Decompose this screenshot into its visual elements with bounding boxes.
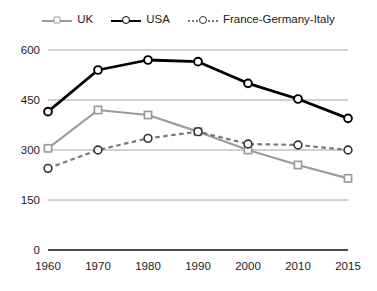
- data-point-marker: [44, 108, 52, 116]
- plot-svg: 0150300450600 19601970198019902000201020…: [0, 36, 377, 291]
- line-circle-marker-dotted-icon: [188, 15, 218, 26]
- legend-label-france-germany-italy: France-Germany-Italy: [223, 14, 335, 26]
- x-axis-tick-label: 2000: [235, 260, 261, 272]
- series-line: [48, 60, 348, 118]
- x-axis-tick-labels: 1960197019801990200020102015: [35, 260, 361, 272]
- data-point-marker: [344, 146, 352, 154]
- data-point-marker: [294, 95, 302, 103]
- legend-item-usa[interactable]: USA: [111, 14, 170, 26]
- gridlines: [48, 50, 348, 250]
- data-point-marker: [194, 128, 202, 136]
- line-circle-marker-icon: [111, 15, 141, 26]
- x-axis-tick-label: 2010: [285, 260, 311, 272]
- x-axis-tick-label: 1970: [85, 260, 111, 272]
- data-point-marker: [294, 161, 301, 168]
- y-axis-tick-labels: 0150300450600: [21, 44, 40, 256]
- data-point-marker: [44, 164, 52, 172]
- x-axis-tick-label: 2015: [335, 260, 361, 272]
- data-point-marker: [94, 106, 101, 113]
- data-point-marker: [94, 146, 102, 154]
- line-square-marker-icon: [42, 15, 72, 26]
- series-line: [48, 110, 348, 178]
- chart-legend: UK USA France-Germany-Italy: [0, 10, 377, 30]
- x-axis-tick-label: 1990: [185, 260, 211, 272]
- data-series-layer: [44, 56, 352, 182]
- data-point-marker: [94, 66, 102, 74]
- plot-area: 0150300450600 19601970198019902000201020…: [0, 36, 377, 291]
- data-point-marker: [244, 79, 252, 87]
- data-point-marker: [294, 141, 302, 149]
- data-point-marker: [44, 145, 51, 152]
- y-axis-tick-label: 150: [21, 194, 40, 206]
- data-point-marker: [344, 114, 352, 122]
- data-point-marker: [194, 58, 202, 66]
- y-axis-tick-label: 450: [21, 94, 40, 106]
- data-point-marker: [144, 56, 152, 64]
- legend-label-usa: USA: [146, 14, 170, 26]
- line-chart: UK USA France-Germany-Italy 015030045060…: [0, 0, 377, 291]
- y-axis-tick-label: 300: [21, 144, 40, 156]
- series-usa: [44, 56, 352, 122]
- data-point-marker: [144, 111, 151, 118]
- y-axis-tick-label: 600: [21, 44, 40, 56]
- x-axis-tick-label: 1980: [135, 260, 161, 272]
- series-uk: [44, 106, 351, 182]
- legend-item-uk[interactable]: UK: [42, 14, 93, 26]
- legend-item-france-germany-italy[interactable]: France-Germany-Italy: [188, 14, 335, 26]
- data-point-marker: [144, 134, 152, 142]
- legend-label-uk: UK: [77, 14, 93, 26]
- x-axis-tick-label: 1960: [35, 260, 61, 272]
- y-axis-tick-label: 0: [34, 244, 40, 256]
- data-point-marker: [344, 175, 351, 182]
- data-point-marker: [244, 140, 252, 148]
